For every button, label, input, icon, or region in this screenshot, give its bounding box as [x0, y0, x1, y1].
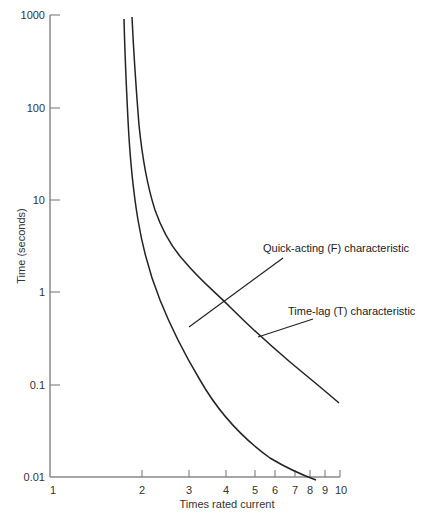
time-lag-leader: [258, 319, 313, 337]
y-axis-title: Time (seconds): [15, 208, 27, 283]
y-ticks: [50, 15, 60, 385]
x-ticks: [142, 470, 340, 477]
x-tick-10: 10: [335, 484, 347, 496]
x-tick-2: 2: [139, 484, 145, 496]
time-lag-curve: [132, 17, 339, 403]
fuse-characteristic-chart: 1000 100 10 1 0.1 0.01 1 2 3 4 5 6 7 8 9…: [0, 0, 422, 519]
quick-acting-annotation: Quick-acting (F) characteristic: [263, 242, 410, 254]
y-tick-0.1: 0.1: [30, 379, 45, 391]
y-tick-0.01: 0.01: [24, 471, 45, 483]
x-tick-labels: 1 2 3 4 5 6 7 8 9 10: [50, 484, 347, 496]
x-tick-9: 9: [322, 484, 328, 496]
x-tick-1: 1: [50, 484, 56, 496]
y-tick-1: 1: [39, 286, 45, 298]
time-lag-annotation: Time-lag (T) characteristic: [288, 305, 416, 317]
x-tick-5: 5: [252, 484, 258, 496]
y-tick-1000: 1000: [21, 9, 45, 21]
x-tick-7: 7: [292, 484, 298, 496]
x-tick-3: 3: [186, 484, 192, 496]
x-tick-8: 8: [307, 484, 313, 496]
y-tick-100: 100: [27, 102, 45, 114]
x-tick-6: 6: [272, 484, 278, 496]
x-axis-title: Times rated current: [180, 498, 275, 510]
y-tick-10: 10: [33, 194, 45, 206]
x-tick-4: 4: [223, 484, 229, 496]
quick-acting-leader: [189, 258, 283, 327]
